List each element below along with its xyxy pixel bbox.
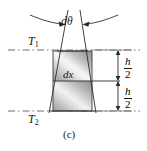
element-block-lower-half [53,81,92,111]
dimension-arrows-h [116,50,121,111]
dtheta-arc-right [86,15,118,24]
dtheta-arrowhead-right [83,22,90,27]
dimension-arrowhead-lower-top [116,81,121,86]
dimension-upper-numerator: h [124,56,132,67]
dimension-upper-denominator: 2 [124,69,132,80]
angle-label-dtheta: dθ [61,16,73,28]
dimension-arrowhead-lower-bottom [116,106,121,111]
temperature-label-bottom: T2 [28,113,39,127]
temperature-bottom-symbol: T [28,112,35,126]
dimension-lower-denominator: 2 [124,99,132,110]
temperature-top-symbol: T [28,34,35,48]
dimension-label-h-over-2-lower: h 2 [124,86,132,110]
dimension-arrowhead-upper-bottom [116,76,121,81]
dtheta-arc-left [30,15,62,24]
dimension-arrowhead-upper-top [116,50,121,55]
dtheta-angle-indicator [30,15,118,27]
figure-caption: (c) [63,129,75,140]
temperature-label-top: T1 [28,35,39,49]
figure-container: T1 T2 dθ dx h 2 h 2 (c) [0,0,147,151]
temperature-top-subscript: 1 [35,40,39,49]
dimension-lower-numerator: h [124,86,132,97]
element-width-label-dx: dx [63,69,73,80]
temperature-bottom-subscript: 2 [35,118,39,127]
dimension-label-h-over-2-upper: h 2 [124,56,132,80]
